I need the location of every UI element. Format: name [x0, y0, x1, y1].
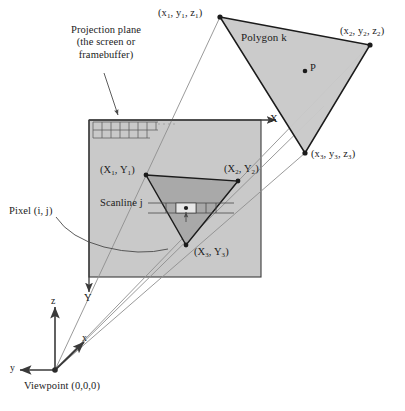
screen-vertex-3-label: (X3, Y3): [194, 246, 229, 258]
projection-plane-leader: [104, 73, 118, 115]
world-x-axis-label: x: [82, 332, 87, 344]
screen-x-axis-label: X: [270, 113, 278, 125]
world-vertex-1-label: (x1, y1, z1): [158, 7, 202, 19]
world-vertex-1-dot: [217, 14, 222, 19]
projection-plane-line-3: framebuffer): [48, 49, 164, 61]
scanline-label: Scanline j: [100, 197, 143, 209]
world-vertex-3-dot: [302, 150, 307, 155]
world-y-axis-label: y: [10, 362, 15, 374]
viewpoint-origin-dot: [52, 367, 58, 373]
viewpoint-label: Viewpoint (0,0,0): [24, 380, 100, 392]
world-axes: [20, 307, 84, 373]
projection-plane-line-2: (the screen or: [48, 36, 164, 48]
screen-vertex-1-dot: [144, 173, 149, 178]
world-z-axis-label: z: [51, 295, 55, 307]
world-vertex-2-label: (x2, y2, z2): [340, 25, 384, 37]
projection-diagram-figure: Projection plane (the screen or framebuf…: [0, 0, 405, 411]
polygon-k-label: Polygon k: [241, 31, 287, 44]
pixel-ij-dot: [184, 206, 188, 210]
projection-plane-callout: Projection plane (the screen or framebuf…: [48, 24, 164, 61]
world-vertex-2-dot: [367, 42, 372, 47]
diagram-canvas: [0, 0, 405, 411]
screen-vertex-2-label: (X2, Y2): [224, 163, 259, 175]
point-p-dot: [303, 69, 308, 74]
world-vertex-3-label: (x3, y3, z3): [311, 148, 355, 160]
world-x-axis: [55, 342, 84, 370]
point-p-label: P: [310, 62, 316, 74]
projection-plane-line-1: Projection plane: [48, 24, 164, 36]
screen-vertex-1-label: (X1, Y1): [100, 164, 135, 176]
pixel-label: Pixel (i, j): [9, 205, 53, 217]
screen-vertex-3-dot: [184, 243, 189, 248]
screen-y-axis-label: Y: [84, 292, 92, 304]
screen-vertex-2-dot: [236, 179, 241, 184]
